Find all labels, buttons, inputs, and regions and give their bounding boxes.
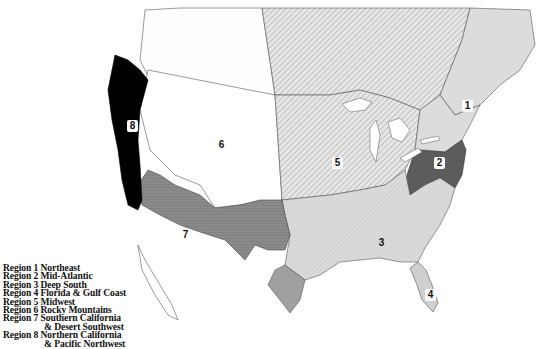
region-label-1: 1 (462, 100, 473, 112)
region-label-2: 2 (434, 157, 445, 169)
region-label-8: 8 (127, 120, 138, 132)
baja-california (138, 245, 178, 320)
region-label-4: 4 (425, 289, 436, 301)
region-label-3: 3 (376, 237, 387, 249)
legend-item-region-8-cont: & Pacific Northwest (3, 340, 126, 348)
region-label-6: 6 (216, 139, 227, 151)
region-label-5: 5 (332, 157, 343, 169)
region-label-7: 7 (180, 229, 191, 241)
region-legend: Region 1 Northeast Region 2 Mid-Atlantic… (3, 264, 126, 348)
region-4-shape (410, 262, 438, 312)
